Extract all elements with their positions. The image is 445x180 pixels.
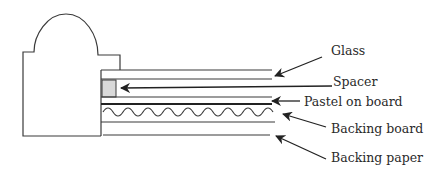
- frame-moulding: [23, 14, 120, 136]
- label-pastel-on-board: Pastel on board: [304, 96, 403, 109]
- label-backing-paper: Backing paper: [331, 152, 423, 165]
- label-spacer: Spacer: [333, 76, 377, 89]
- label-backing-board: Backing board: [331, 123, 423, 136]
- label-glass: Glass: [331, 45, 365, 58]
- glass-arrow: [275, 57, 322, 76]
- spacer-block: [102, 80, 116, 97]
- backing-board-corrugation: [103, 108, 273, 116]
- backing-board-arrow: [283, 114, 326, 127]
- spacer-arrow: [121, 86, 332, 88]
- backing-paper-arrow: [276, 136, 326, 159]
